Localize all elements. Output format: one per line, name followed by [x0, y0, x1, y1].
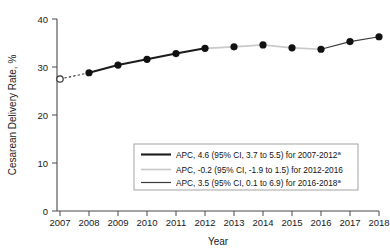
- x-axis-title: Year: [208, 236, 229, 247]
- legend-label-3: APC, 3.5 (95% CI, 0.1 to 6.9) for 2016-2…: [176, 178, 341, 188]
- x-tick-label-2013: 2013: [223, 217, 244, 228]
- data-point-2010: [143, 56, 150, 63]
- x-tick-label-2016: 2016: [310, 217, 331, 228]
- y-axis-ticks: [52, 19, 57, 211]
- x-tick-label-2017: 2017: [339, 217, 360, 228]
- legend: APC, 4.6 (95% CI, 3.7 to 5.5) for 2007-2…: [134, 144, 358, 190]
- data-point-2008: [85, 69, 92, 76]
- y-tick-label-20: 20: [37, 110, 48, 121]
- data-point-2017: [346, 38, 353, 45]
- figure-container: 40 30 20 10 0 Cesarean Delivery Rate, % …: [0, 0, 390, 252]
- line-chart: 40 30 20 10 0 Cesarean Delivery Rate, % …: [0, 0, 390, 252]
- data-point-2018: [375, 33, 382, 40]
- data-point-markers: [57, 33, 383, 82]
- x-tick-label-2011: 2011: [166, 217, 186, 228]
- y-tick-label-10: 10: [37, 158, 48, 169]
- x-tick-label-2015: 2015: [281, 217, 302, 228]
- data-point-2012: [201, 45, 208, 52]
- data-point-2009: [114, 61, 121, 68]
- x-tick-label-2010: 2010: [136, 217, 157, 228]
- data-point-2013: [230, 43, 237, 50]
- data-point-2011: [172, 50, 179, 57]
- y-axis-title: Cesarean Delivery Rate, %: [7, 55, 18, 176]
- x-tick-label-2018: 2018: [368, 217, 389, 228]
- y-tick-label-40: 40: [37, 14, 48, 25]
- data-point-2015: [288, 44, 295, 51]
- y-tick-label-30: 30: [37, 62, 48, 73]
- x-axis-ticks: [60, 211, 379, 216]
- x-tick-label-2008: 2008: [78, 217, 99, 228]
- x-tick-label-2014: 2014: [252, 217, 273, 228]
- data-point-2016: [317, 46, 324, 53]
- data-point-2007: [57, 76, 63, 82]
- dashed-leadin-segment: [60, 73, 89, 79]
- legend-label-2: APC, -0.2 (95% CI, -1.9 to 1.5) for 2012…: [176, 165, 343, 175]
- x-tick-label-2007: 2007: [49, 217, 70, 228]
- y-tick-label-0: 0: [43, 206, 48, 217]
- legend-label-1: APC, 4.6 (95% CI, 3.7 to 5.5) for 2007-2…: [176, 150, 341, 160]
- data-series-group: [57, 33, 383, 82]
- data-point-2014: [259, 41, 266, 48]
- x-tick-label-2012: 2012: [194, 217, 215, 228]
- x-tick-label-2009: 2009: [107, 217, 128, 228]
